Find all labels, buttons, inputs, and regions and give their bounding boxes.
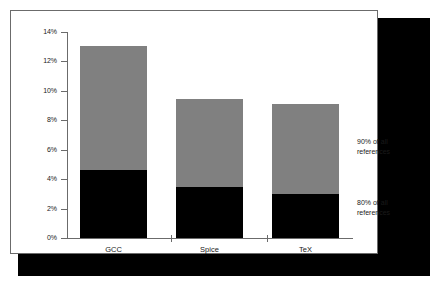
y-tick-label-10: 10% xyxy=(27,87,57,94)
x-category-separator xyxy=(267,235,268,242)
legend-annotation-80-line2: references xyxy=(357,208,390,218)
bar-segment-gcc-80 xyxy=(80,170,147,238)
x-category-label-spice: Spice xyxy=(176,245,243,254)
y-tick-label-14: 14% xyxy=(27,28,57,35)
x-category-label-gcc: GCC xyxy=(80,245,147,254)
y-tick-mark xyxy=(61,120,68,121)
x-category-separator xyxy=(171,235,172,242)
y-tick-mark xyxy=(61,61,68,62)
y-tick-label-4: 4% xyxy=(27,175,57,182)
x-axis-line xyxy=(67,238,353,239)
y-tick-mark xyxy=(61,150,68,151)
legend-annotation-90-line2: references xyxy=(357,147,390,157)
y-tick-mark xyxy=(61,238,68,239)
y-tick-label-0: 0% xyxy=(27,234,57,241)
bar-segment-tex-80 xyxy=(272,194,339,238)
bar-segment-gcc-90 xyxy=(80,46,147,170)
y-tick-label-2: 2% xyxy=(27,205,57,212)
bar-segment-spice-90 xyxy=(176,99,243,188)
bar-segment-spice-80 xyxy=(176,187,243,238)
bar-gcc xyxy=(80,46,147,238)
y-tick-label-6: 6% xyxy=(27,146,57,153)
bar-segment-tex-90 xyxy=(272,104,339,193)
legend-annotation-80-line1: 80% of all xyxy=(357,198,390,208)
y-tick-mark xyxy=(61,209,68,210)
y-tick-mark xyxy=(61,91,68,92)
legend-annotation-80: 80% of all references xyxy=(357,198,390,217)
y-tick-label-8: 8% xyxy=(27,116,57,123)
plot-area: 14% 12% 10% 8% 6% 4% 2% 0% xyxy=(11,11,377,253)
bar-spice xyxy=(176,99,243,239)
legend-annotation-90-line1: 90% of all xyxy=(357,137,390,147)
bar-tex xyxy=(272,104,339,238)
y-tick-label-12: 12% xyxy=(27,57,57,64)
chart-screenshot: 14% 12% 10% 8% 6% 4% 2% 0% xyxy=(0,0,436,284)
figure-frame: 14% 12% 10% 8% 6% 4% 2% 0% xyxy=(10,10,378,254)
x-category-label-tex: TeX xyxy=(272,245,339,254)
y-tick-mark xyxy=(61,32,68,33)
y-tick-mark xyxy=(61,179,68,180)
legend-annotation-90: 90% of all references xyxy=(357,137,390,156)
